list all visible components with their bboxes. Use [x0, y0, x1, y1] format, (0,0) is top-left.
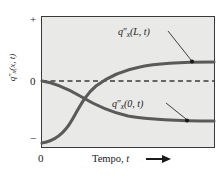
y-tick-plus: +: [30, 14, 36, 25]
leader-line-upper: [168, 31, 191, 60]
series-label-args: (0, t): [124, 98, 143, 109]
figure-container: + 0 − 0 q″x(x, t) Tempo, t q″x(L, t) q″x…: [0, 0, 223, 178]
plot-graphics: [0, 0, 223, 178]
x-axis-label: Tempo, t: [92, 153, 129, 164]
series-label-qx-0: q″x(0, t): [112, 98, 143, 111]
x-axis-label-text: Tempo,: [92, 153, 124, 164]
series-label-qx-L: q″x(L, t): [118, 26, 150, 39]
leader-dot-lower: [185, 118, 189, 122]
x-tick-origin: 0: [38, 152, 44, 164]
x-axis-arrow-head: [162, 155, 171, 163]
leader-line-lower: [166, 103, 186, 119]
y-tick-zero: 0: [30, 76, 36, 87]
series-label-args: (L, t): [130, 26, 150, 37]
y-tick-minus: −: [30, 133, 36, 144]
x-axis-label-var: t: [126, 153, 129, 164]
leader-dot-upper: [190, 59, 194, 63]
y-axis-label: q″x(x, t): [7, 37, 18, 97]
